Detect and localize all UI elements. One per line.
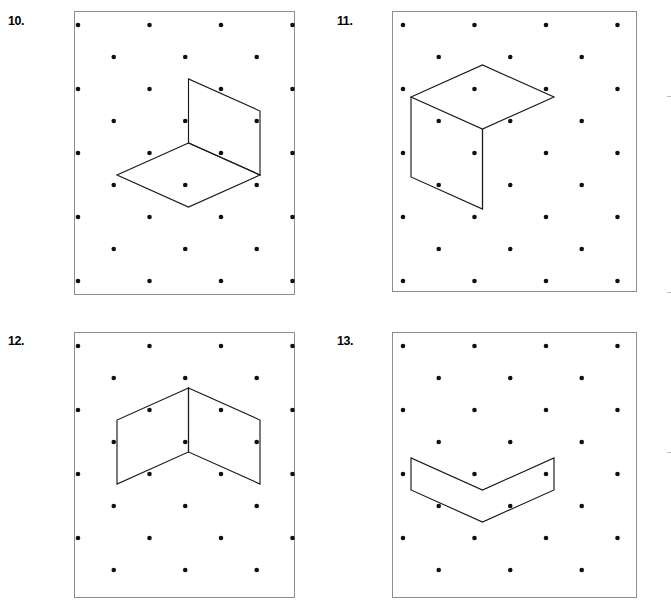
grid-dot (508, 183, 513, 188)
grid-dot (76, 344, 81, 349)
grid-dot (219, 408, 224, 413)
grid-dot (544, 344, 549, 349)
dot-grid-figure-11 (393, 12, 638, 293)
grid-dot (401, 23, 406, 28)
grid-dot (401, 536, 406, 541)
grid-dot (219, 344, 224, 349)
grid-dot (219, 23, 224, 28)
grid-dot (508, 376, 513, 381)
grid-dot (436, 183, 441, 188)
grid-dot (290, 344, 295, 349)
grid-dot (472, 87, 477, 92)
grid-dot (615, 344, 620, 349)
grid-dot (436, 247, 441, 252)
grid-dot (508, 247, 513, 252)
dot-grid-figure-12 (75, 333, 296, 599)
grid-dot (615, 279, 620, 284)
grid-dot (290, 151, 295, 156)
grid-dot (579, 55, 584, 60)
grid-dot (579, 376, 584, 381)
grid-dot (508, 504, 513, 509)
grid-dot (147, 344, 152, 349)
grid-dot (579, 440, 584, 445)
grid-dot (615, 23, 620, 28)
grid-dot (615, 536, 620, 541)
dot-grid-box-10 (74, 11, 295, 295)
grid-dot (472, 215, 477, 220)
page-edge-rule-right-low (667, 452, 671, 453)
dot-grid-box-13 (392, 332, 637, 598)
grid-dot (544, 472, 549, 477)
grid-dot (472, 23, 477, 28)
grid-dot (111, 440, 116, 445)
grid-dot (290, 472, 295, 477)
grid-dot (472, 472, 477, 477)
page-edge-rule-right-top (667, 96, 671, 97)
figure-edge (411, 458, 554, 522)
grid-dot (544, 215, 549, 220)
grid-dot (508, 119, 513, 124)
problem-label-10: 10. (8, 14, 24, 28)
grid-dot (147, 408, 152, 413)
grid-dot (436, 504, 441, 509)
figure-vee-walls (117, 388, 260, 484)
grid-dot (401, 215, 406, 220)
grid-dot (508, 440, 513, 445)
grid-dot (147, 151, 152, 156)
grid-dot (544, 151, 549, 156)
grid-dot (76, 151, 81, 156)
grid-dot (615, 215, 620, 220)
grid-dot (219, 151, 224, 156)
grid-dot (401, 408, 406, 413)
grid-dot (76, 536, 81, 541)
dot-grid-figure-13 (393, 333, 638, 599)
figure-cube-outline (411, 65, 554, 209)
grid-dot (579, 504, 584, 509)
grid-dot (111, 183, 116, 188)
grid-dot (508, 55, 513, 60)
grid-dot (183, 55, 188, 60)
grid-dot (472, 408, 477, 413)
grid-dot (183, 119, 188, 124)
grid-dot (436, 55, 441, 60)
grid-dot (401, 472, 406, 477)
grid-dot (401, 151, 406, 156)
grid-dot (76, 23, 81, 28)
problem-label-13: 13. (337, 334, 353, 348)
grid-dot (615, 151, 620, 156)
grid-dot (579, 568, 584, 573)
grid-dot (290, 536, 295, 541)
grid-dot (544, 279, 549, 284)
grid-dot (290, 408, 295, 413)
grid-dot (579, 119, 584, 124)
grid-dot (111, 119, 116, 124)
dot-grid-figure-10 (75, 12, 296, 296)
grid-dot (111, 247, 116, 252)
grid-dot (219, 472, 224, 477)
grid-dot (76, 279, 81, 284)
grid-dot (436, 376, 441, 381)
grid-dot (472, 279, 477, 284)
grid-dot (472, 536, 477, 541)
figure-open-box-corner (117, 79, 260, 207)
grid-dot (436, 440, 441, 445)
grid-dot (111, 55, 116, 60)
grid-dot (183, 183, 188, 188)
grid-dot (615, 87, 620, 92)
worksheet-sheet: 10. 11. 12. 13. (0, 0, 671, 610)
problem-label-12: 12. (8, 334, 24, 348)
grid-dot (544, 23, 549, 28)
grid-dot (111, 568, 116, 573)
figure-edge (117, 143, 260, 207)
grid-dot (579, 247, 584, 252)
dot-grid-box-12 (74, 332, 295, 598)
grid-dot (183, 568, 188, 573)
grid-dot (111, 504, 116, 509)
grid-dot (544, 536, 549, 541)
grid-dot (219, 279, 224, 284)
page-edge-rule-right-mid (667, 292, 671, 293)
grid-dot (401, 87, 406, 92)
grid-dot (401, 279, 406, 284)
grid-dot (290, 87, 295, 92)
figure-edge (411, 65, 554, 129)
